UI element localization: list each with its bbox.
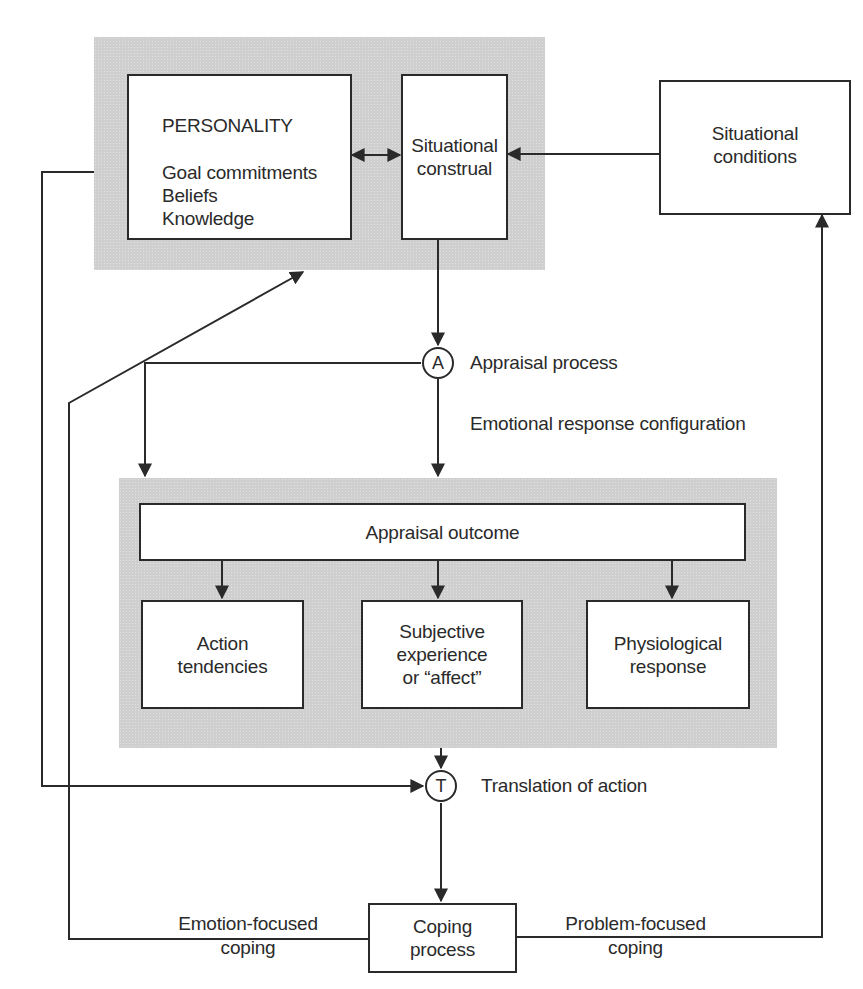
problem-focused-line-2: coping xyxy=(553,936,718,960)
translation-node-symbol: T xyxy=(436,776,447,797)
goal-commitments-text: Goal commitments xyxy=(162,161,317,184)
subjective-experience-line-2: experience xyxy=(397,643,488,666)
subjective-experience-box: Subjective experience or “affect” xyxy=(361,600,523,709)
emotional-response-configuration-label: Emotional response configuration xyxy=(470,413,746,435)
translation-node: T xyxy=(425,770,457,802)
coping-process-line-1: Coping xyxy=(413,915,472,938)
emotion-focused-coping-label: Emotion-focused coping xyxy=(168,912,328,960)
emotion-focused-line-2: coping xyxy=(168,936,328,960)
appraisal-outcome-box: Appraisal outcome xyxy=(139,503,746,561)
personality-box: PERSONALITY Goal commitments Beliefs Kno… xyxy=(127,74,352,240)
situational-conditions-line-2: conditions xyxy=(713,145,797,168)
problem-focused-line-1: Problem-focused xyxy=(553,912,718,936)
physiological-response-line-1: Physiological xyxy=(614,632,722,655)
action-tendencies-box: Action tendencies xyxy=(141,600,304,709)
physiological-response-box: Physiological response xyxy=(586,600,750,709)
appraisal-process-label: Appraisal process xyxy=(470,352,618,374)
situational-construal-line-2: construal xyxy=(417,157,492,180)
coping-process-box: Coping process xyxy=(368,903,517,973)
translation-of-action-label: Translation of action xyxy=(481,775,647,797)
appraisal-node: A xyxy=(422,347,454,379)
subjective-experience-line-3: or “affect” xyxy=(403,666,482,689)
situational-construal-line-1: Situational xyxy=(411,134,498,157)
action-tendencies-line-2: tendencies xyxy=(178,655,268,678)
physiological-response-line-2: response xyxy=(630,655,707,678)
problem-focused-coping-label: Problem-focused coping xyxy=(553,912,718,960)
beliefs-text: Beliefs xyxy=(162,184,218,207)
appraisal-node-symbol: A xyxy=(432,353,444,374)
knowledge-text: Knowledge xyxy=(162,207,254,230)
appraisal-outcome-text: Appraisal outcome xyxy=(366,521,520,544)
subjective-experience-line-1: Subjective xyxy=(399,620,485,643)
coping-process-line-2: process xyxy=(410,938,475,961)
situational-conditions-box: Situational conditions xyxy=(659,80,851,215)
emotion-focused-line-1: Emotion-focused xyxy=(168,912,328,936)
personality-title: PERSONALITY xyxy=(162,114,293,137)
situational-construal-box: Situational construal xyxy=(401,74,508,240)
action-tendencies-line-1: Action xyxy=(197,632,249,655)
situational-conditions-line-1: Situational xyxy=(712,122,799,145)
